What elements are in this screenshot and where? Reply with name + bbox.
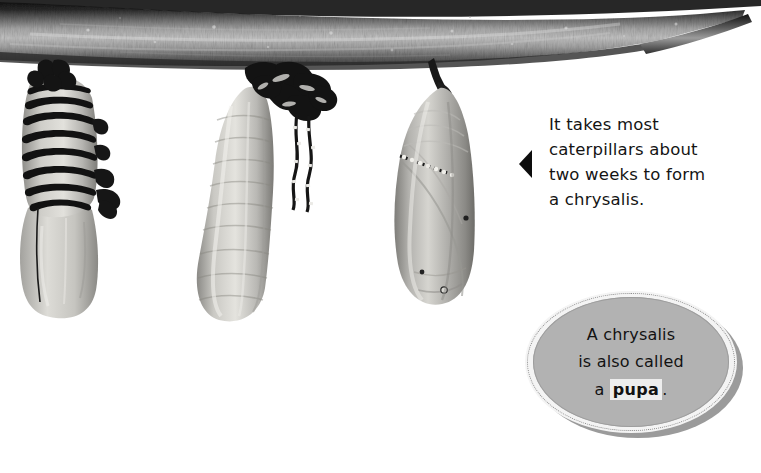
specimen1-lower-body xyxy=(20,202,98,318)
left-triangle-icon xyxy=(519,150,532,178)
chrysalis-graphic xyxy=(378,58,503,313)
circle-line-1: A chrysalis xyxy=(587,321,676,348)
fact-callout: It takes most caterpillars about two wee… xyxy=(549,112,754,212)
circle-line-3-prefix: a xyxy=(595,380,605,399)
caterpillar-soft-pupa-graphic xyxy=(185,58,360,328)
caterpillar-shedding-skin-graphic xyxy=(8,58,138,323)
circle-face: A chrysalis is also called a pupa. xyxy=(533,297,729,427)
circle-line-3-suffix: . xyxy=(662,380,667,399)
pupa-circle-callout: A chrysalis is also called a pupa. xyxy=(519,288,751,444)
circle-line-3: a pupa. xyxy=(595,376,668,403)
chrysalis xyxy=(378,58,503,313)
fact-callout-line-4: a chrysalis. xyxy=(549,187,754,212)
fact-callout-line-3: two weeks to form xyxy=(549,162,754,187)
specimen1-shed-skin xyxy=(27,59,76,91)
caterpillar-soft-pupa xyxy=(185,58,360,328)
circle-line-2: is also called xyxy=(578,348,684,375)
fact-callout-line-2: caterpillars about xyxy=(549,137,754,162)
fact-callout-line-1: It takes most xyxy=(549,112,754,137)
pupa-highlight: pupa xyxy=(610,379,662,400)
caterpillar-shedding-skin xyxy=(8,58,138,323)
page-root: It takes most caterpillars about two wee… xyxy=(0,0,761,473)
